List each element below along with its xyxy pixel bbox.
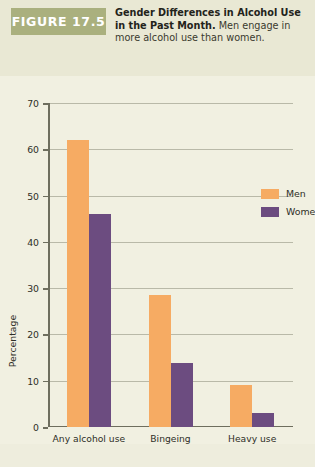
- bar-group: Bingeing: [149, 103, 193, 427]
- legend-item-women: Women: [261, 206, 315, 217]
- figure-panel: FIGURE 17.5 Gender Differences in Alcoho…: [0, 0, 315, 467]
- bar-group: Heavy use: [230, 103, 274, 427]
- chart-legend: Men Women: [261, 188, 315, 224]
- legend-swatch-women-icon: [261, 207, 279, 217]
- chart-area: 010203040506070 Any alcohol useBingeingH…: [0, 76, 315, 444]
- bar-women-heavy-use: [252, 413, 274, 427]
- bar-group: Any alcohol use: [67, 103, 111, 427]
- legend-label-men: Men: [286, 188, 306, 199]
- plot-region: 010203040506070 Any alcohol useBingeingH…: [48, 103, 293, 427]
- bar-women-any-alcohol-use: [89, 214, 111, 427]
- y-axis-tick-label: 0: [33, 422, 39, 433]
- bar-men-bingeing: [149, 295, 171, 427]
- bar-men-heavy-use: [230, 385, 252, 427]
- y-axis-tick: [43, 427, 48, 429]
- y-axis-tick-label: 70: [27, 98, 39, 109]
- y-axis-tick-label: 20: [27, 329, 39, 340]
- x-axis-tick-label: Any alcohol use: [53, 433, 126, 444]
- legend-swatch-men-icon: [261, 189, 279, 199]
- y-axis-tick-label: 10: [27, 375, 39, 386]
- bar-women-bingeing: [171, 363, 193, 427]
- figure-number-label: FIGURE 17.5: [12, 14, 106, 29]
- y-axis-title: Percentage: [7, 315, 18, 367]
- legend-label-women: Women: [286, 206, 315, 217]
- y-axis-tick-label: 30: [27, 283, 39, 294]
- figure-header: FIGURE 17.5 Gender Differences in Alcoho…: [0, 0, 315, 76]
- bar-men-any-alcohol-use: [67, 140, 89, 427]
- legend-item-men: Men: [261, 188, 315, 199]
- figure-footer-band: [0, 444, 315, 467]
- figure-number-badge: FIGURE 17.5: [11, 8, 106, 35]
- y-axis-tick-label: 60: [27, 144, 39, 155]
- y-axis-tick-label: 50: [27, 190, 39, 201]
- x-axis-tick-label: Bingeing: [150, 433, 190, 444]
- x-axis-tick-label: Heavy use: [228, 433, 276, 444]
- bar-groups: Any alcohol useBingeingHeavy use: [48, 103, 293, 427]
- figure-caption: Gender Differences in Alcohol Use in the…: [115, 7, 307, 45]
- y-axis-tick-label: 40: [27, 236, 39, 247]
